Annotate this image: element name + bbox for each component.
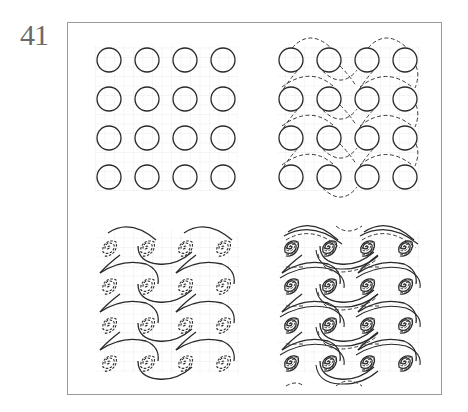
panel-step-3 [96, 227, 239, 379]
panel-step-1 [95, 46, 238, 191]
panel-step-4 [278, 226, 421, 386]
quilting-diagram [0, 0, 468, 412]
panel-step-2 [278, 38, 421, 197]
